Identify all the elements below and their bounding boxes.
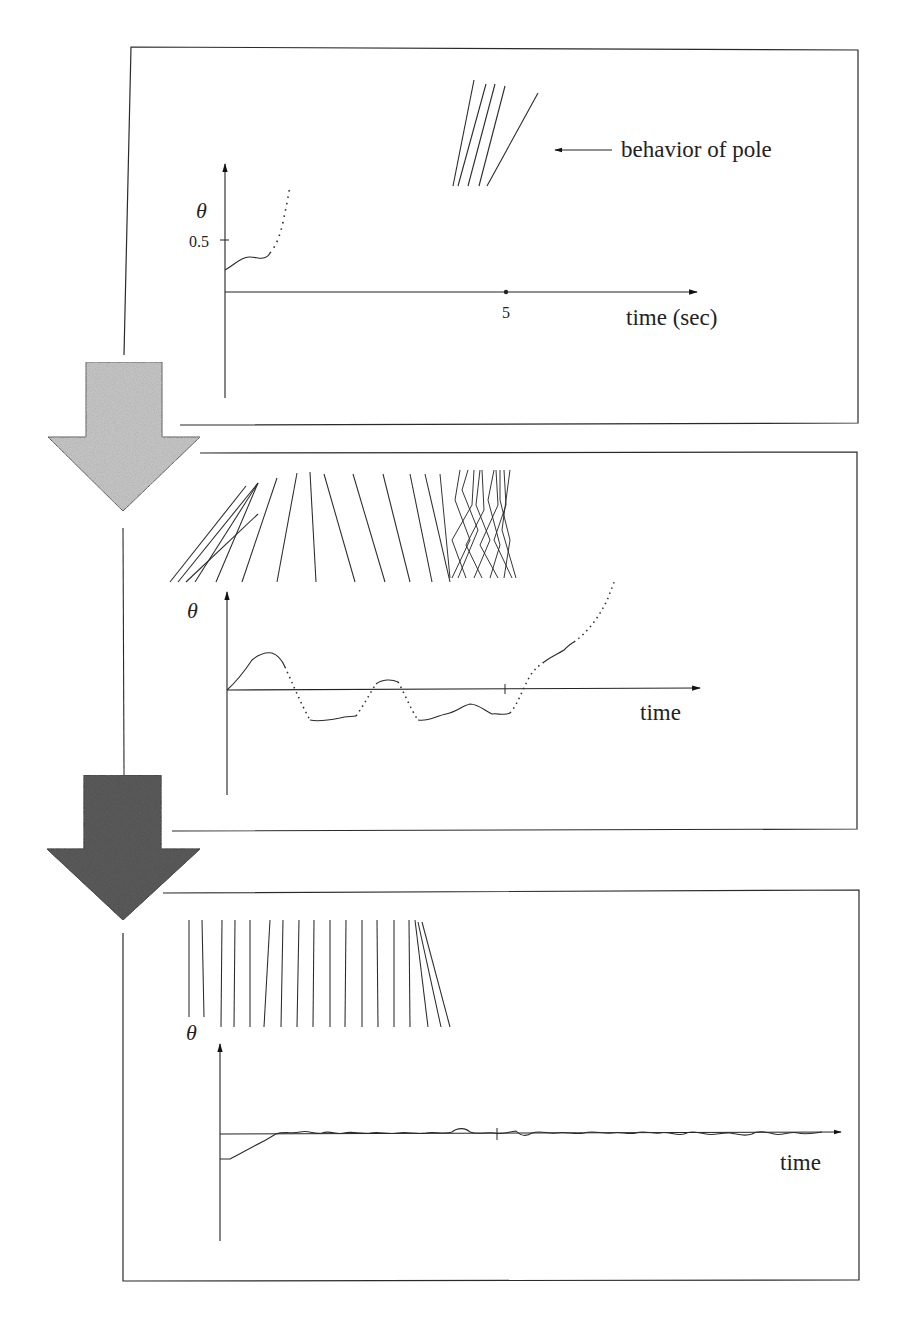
theta-curve-2-f [418, 704, 510, 720]
theta-curve-2-dotted-e [398, 682, 418, 720]
panel-3-frame [123, 890, 859, 1281]
theta-curve-2-h [544, 642, 574, 662]
y-axis-label: θ [187, 598, 198, 623]
theta-curve-2-d [376, 680, 398, 684]
pole-trajectory-2 [170, 472, 450, 582]
progress-arrow-2 [47, 775, 200, 920]
y-axis-label: θ [186, 1020, 197, 1045]
pole-annotation: behavior of pole [555, 137, 772, 162]
plot-3: θ time [186, 1020, 841, 1241]
panel-stage-3: θ time [123, 768, 859, 1281]
x-axis-label: time [640, 700, 681, 725]
y-axis-label: θ [196, 198, 207, 223]
theta-curve-2 [227, 653, 285, 690]
theta-curve-2-dotted-i [574, 580, 615, 642]
panel-1-frame [124, 47, 858, 425]
x-axis-label: time (sec) [626, 305, 717, 330]
down-arrow-icon [47, 775, 200, 920]
pole-trajectory-3 [189, 920, 450, 1027]
x-tick-label: 5 [502, 304, 510, 321]
panel-2-frame [172, 452, 857, 831]
theta-curve-2-dotted-g [510, 662, 544, 713]
theta-curve-1-dotted [270, 186, 290, 253]
annotation-behavior-of-pole: behavior of pole [621, 137, 772, 162]
x-axis [227, 688, 700, 690]
y-tick-label: 0.5 [189, 233, 209, 250]
progress-arrow-1 [48, 362, 200, 511]
down-arrow-icon [48, 362, 200, 511]
figure: behavior of pole θ 0.5 5 time (sec) [0, 0, 910, 1325]
theta-curve-2-dotted-c [356, 684, 376, 716]
panel-2-left-edge [123, 528, 124, 768]
panel-stage-2: θ time [123, 452, 857, 831]
x-axis-label: time [780, 1150, 821, 1175]
plot-1: θ 0.5 5 time (sec) [189, 164, 717, 398]
x-tick-5 [504, 290, 508, 294]
panel-stage-1: behavior of pole θ 0.5 5 time (sec) [124, 47, 858, 425]
theta-curve-2-b [310, 716, 356, 721]
pole-trajectory-1 [453, 80, 538, 186]
theta-curve-1 [225, 253, 270, 270]
pole-trajectory-2-crossing [440, 470, 516, 578]
plot-2: θ time [187, 580, 700, 795]
theta-curve-2-dotted-a [285, 667, 310, 720]
